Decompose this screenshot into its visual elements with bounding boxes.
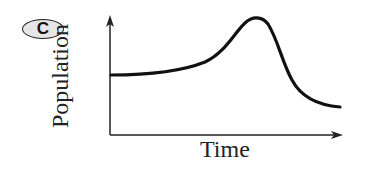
x-axis-label: Time bbox=[200, 136, 250, 163]
population-curve bbox=[111, 18, 340, 107]
y-axis-label: Population bbox=[47, 24, 74, 128]
